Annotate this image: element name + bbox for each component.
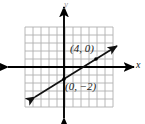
point-label-0-neg2: (0, −2) xyxy=(65,81,96,92)
coordinate-plane-figure xyxy=(0,0,145,124)
point-marker-4-0 xyxy=(94,57,98,61)
point-label-4-0: (4, 0) xyxy=(70,43,94,54)
x-axis-label: x xyxy=(136,60,140,70)
y-axis-label: y xyxy=(64,0,68,9)
graph-screenshot: (4, 0) (0, −2) x y xyxy=(0,0,145,124)
